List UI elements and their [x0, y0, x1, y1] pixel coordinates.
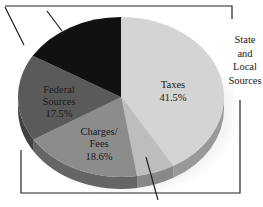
side-label-line2: and [226, 47, 263, 61]
label-charges-line2: Fees [89, 138, 108, 149]
label-charges-pct: 18.6% [85, 151, 112, 162]
top-left-tick [5, 7, 24, 45]
side-label-line1: State [226, 33, 263, 47]
label-taxes-pct: 41.5% [159, 92, 186, 103]
pie-chart: Taxes 41.5% Federal Sources 17.5% Charge… [0, 0, 263, 207]
label-federal-line1: Federal [43, 84, 75, 95]
label-charges-line1: Charges/ [80, 126, 117, 137]
state-local-sources-label: State and Local Sources [226, 33, 263, 87]
side-label-line4: Sources [226, 74, 263, 88]
side-label-line3: Local [226, 60, 263, 74]
black-slice-pointer [47, 11, 62, 31]
label-taxes-name: Taxes [161, 79, 185, 90]
label-federal-line2: Sources [42, 96, 75, 107]
label-federal-pct: 17.5% [45, 108, 72, 119]
